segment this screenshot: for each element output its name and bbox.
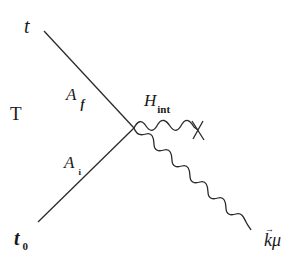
photon-momentum-label: → k μ	[264, 231, 281, 249]
amplitude-final-label: Af	[66, 86, 80, 103]
interaction-hamiltonian-label: Hint	[144, 92, 169, 109]
diagram-canvas	[0, 0, 304, 261]
emitted-wavy-line	[134, 128, 251, 230]
tau-label: T	[10, 104, 22, 123]
time-t-label: t	[24, 16, 30, 36]
time-t0-label: t0	[14, 228, 25, 248]
interaction-diagram: t T Af Hint Ai t0 → k μ	[0, 0, 304, 261]
initial-state-line	[38, 128, 134, 222]
vector-arrow-icon: →	[265, 225, 274, 234]
final-state-line	[44, 31, 134, 128]
cross-terminator-icon	[192, 121, 204, 140]
interaction-wavy-line	[134, 120, 198, 130]
k-vector: → k	[264, 231, 272, 249]
amplitude-initial-label: Ai	[64, 154, 77, 171]
